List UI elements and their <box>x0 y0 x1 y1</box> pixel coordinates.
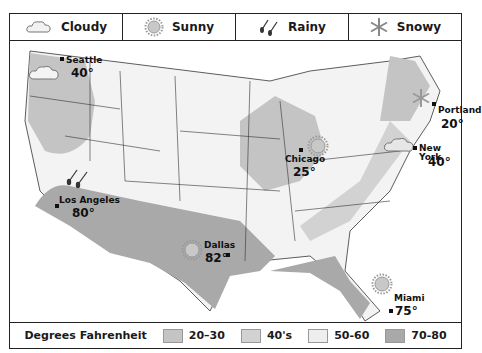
city-portland: Portland <box>438 106 482 115</box>
cloud-icon <box>28 63 62 83</box>
rain-icon <box>64 167 90 191</box>
city-marker <box>299 148 303 152</box>
city-marker <box>389 309 393 313</box>
city-marker <box>226 253 230 257</box>
temp-los-angeles: 80° <box>72 206 95 220</box>
snowflake-icon <box>369 17 389 37</box>
temp-seattle: 40° <box>71 66 94 80</box>
legend-snowy: Snowy <box>349 14 461 40</box>
city-marker <box>60 57 64 61</box>
legend-item-70-80: 70-80 <box>385 329 446 343</box>
city-marker <box>413 146 417 150</box>
temp-new-york: 40° <box>428 155 451 169</box>
legend-label: 50-60 <box>334 329 369 342</box>
legend-item-50-60: 50-60 <box>308 329 369 343</box>
us-weather-map: Seattle 40° Los Angeles 80° Dallas 82° C… <box>9 40 462 323</box>
legend-cloudy: Cloudy <box>10 14 123 40</box>
city-marker <box>432 102 436 106</box>
legend-label: 40's <box>267 329 292 342</box>
color-swatch <box>308 329 328 343</box>
city-chicago: Chicago <box>285 155 325 164</box>
color-swatch <box>163 329 183 343</box>
temp-dallas: 82° <box>205 251 228 265</box>
color-swatch <box>241 329 261 343</box>
city-miami: Miami <box>394 294 425 303</box>
sun-icon <box>144 17 164 37</box>
legend-label: 20–30 <box>189 329 225 342</box>
city-dallas: Dallas <box>204 241 235 250</box>
legend-label: 70-80 <box>411 329 446 342</box>
legend-sunny: Sunny <box>123 14 236 40</box>
cloud-icon <box>383 135 417 155</box>
legend-item-20-30: 20–30 <box>163 329 225 343</box>
legend-label: Sunny <box>172 20 214 34</box>
city-seattle: Seattle <box>66 56 102 65</box>
legend-title: Degrees Fahrenheit <box>24 329 146 342</box>
snowflake-icon <box>411 88 431 108</box>
temp-chicago: 25° <box>293 165 316 179</box>
legend-item-40s: 40's <box>241 329 292 343</box>
city-los-angeles: Los Angeles <box>59 196 120 205</box>
weather-legend: Cloudy Sunny Rainy Snowy <box>9 13 462 41</box>
legend-rainy: Rainy <box>236 14 349 40</box>
cloud-icon <box>25 19 53 35</box>
color-swatch <box>385 329 405 343</box>
legend-label: Cloudy <box>61 20 107 34</box>
legend-label: Snowy <box>397 20 441 34</box>
temp-miami: 75° <box>395 304 418 318</box>
sun-icon <box>181 239 203 261</box>
legend-label: Rainy <box>288 20 326 34</box>
sun-icon <box>371 273 393 295</box>
rain-icon <box>258 18 280 36</box>
temperature-legend: Degrees Fahrenheit 20–30 40's 50-60 70-8… <box>9 322 462 349</box>
temp-portland: 20° <box>441 117 464 131</box>
